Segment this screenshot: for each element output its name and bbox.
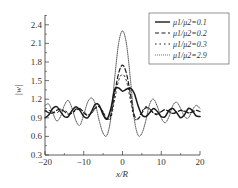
legend-label-3: μ1/μ2=2.9	[172, 51, 207, 60]
line-chart: −20−1001020 0.30.60.91.21.51.82.12.4 x/R…	[0, 0, 238, 188]
y-tick-label: 2.4	[31, 20, 43, 30]
y-tick-label: 0.9	[31, 113, 43, 123]
x-tick-label: 10	[157, 157, 167, 167]
y-tick-label: 0.3	[31, 150, 43, 160]
x-tick-label: 20	[196, 157, 206, 167]
legend-label-2: μ1/μ2=0.3	[172, 40, 207, 49]
x-tick-label: −10	[77, 157, 92, 167]
x-axis-label: x/R	[115, 169, 128, 179]
y-tick-label: 1.5	[31, 76, 43, 86]
series-line-dashed	[45, 65, 200, 119]
x-ticks: −20−1001020	[38, 151, 205, 167]
y-ticks: 0.30.60.91.21.51.82.12.4	[31, 16, 49, 161]
y-tick-label: 1.8	[31, 57, 43, 67]
y-axis-label: |w|	[13, 85, 23, 96]
legend-label-0: μ1/μ2=0.1	[172, 18, 207, 27]
x-tick-label: 0	[120, 157, 125, 167]
y-tick-label: 0.6	[31, 131, 43, 141]
legend-label-1: μ1/μ2=0.2	[172, 29, 207, 38]
y-tick-label: 2.1	[31, 38, 42, 48]
legend: μ1/μ2=0.1 μ1/μ2=0.2 μ1/μ2=0.3 μ1/μ2=2.9	[149, 13, 229, 64]
y-tick-label: 1.2	[31, 94, 42, 104]
